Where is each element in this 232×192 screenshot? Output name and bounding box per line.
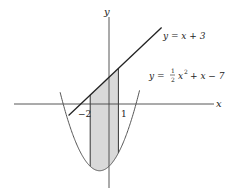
y-axis-label: y bbox=[103, 6, 110, 17]
line-equation-label: y = x + 3 bbox=[162, 31, 206, 41]
x-axis-label: x bbox=[216, 98, 222, 109]
tick-label-1: 1 bbox=[121, 109, 127, 119]
parabola-label-suffix: + x − 7 bbox=[190, 71, 225, 81]
shaded-region bbox=[90, 68, 118, 170]
parabola-label-exp: 2 bbox=[184, 68, 188, 75]
parabola-frac-den: 2 bbox=[171, 76, 175, 83]
tick-label-neg2: −2 bbox=[78, 109, 91, 119]
parabola-label-prefix: y = bbox=[148, 71, 167, 81]
parabola-frac-num: 1 bbox=[171, 67, 175, 74]
parabola-label-x: x bbox=[178, 71, 183, 81]
parabola-equation-label: y = 1 2 x 2 + x − 7 bbox=[148, 67, 225, 83]
area-between-curves-diagram: y x −2 1 y = x + 3 y = 1 2 x 2 + x − 7 bbox=[0, 0, 232, 192]
